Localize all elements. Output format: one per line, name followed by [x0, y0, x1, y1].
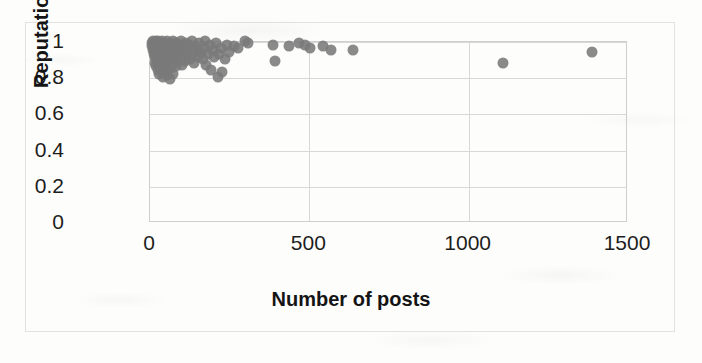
y-axis-tick-label: 0.4: [35, 139, 64, 160]
y-axis-tick-label: 0.6: [35, 102, 64, 123]
x-axis-title: Number of posts: [0, 288, 702, 311]
y-axis-tick-label: 1: [52, 30, 64, 51]
x-axis-tick-label: 0: [143, 232, 155, 253]
y-axis-tick-label: 0: [52, 211, 64, 232]
x-axis-tick-label: 500: [291, 232, 326, 253]
y-axis-title: Reputation: [30, 0, 53, 88]
x-axis-tick-label: 1500: [604, 232, 651, 253]
x-axis-tick-label: 1000: [444, 232, 491, 253]
y-axis-tick-label: 0.2: [35, 175, 64, 196]
